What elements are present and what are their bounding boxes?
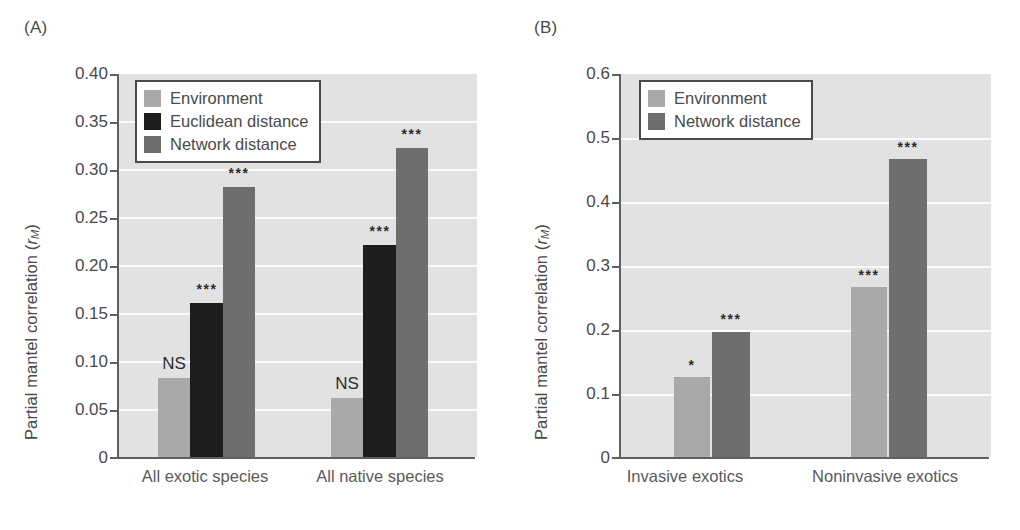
gridline-b-03	[621, 266, 991, 268]
y-tick-a-0	[110, 74, 119, 76]
y-tick-b-2	[612, 202, 621, 204]
legend-item-b-environment[interactable]: Environment	[648, 87, 801, 110]
y-tick-a-3	[110, 218, 119, 220]
plot-area-b: * *** *** *** Environment Network distan…	[621, 74, 991, 457]
legend-swatch-euclidean-icon	[144, 113, 161, 130]
sig-a-exotic-environment: NS	[144, 354, 204, 374]
bar-b-noninvasive-network[interactable]	[889, 159, 927, 457]
bar-a-exotic-euclidean[interactable]	[190, 303, 223, 457]
y-axis-title-subscript-a: M	[29, 230, 41, 239]
sig-a-native-network: ***	[384, 126, 440, 142]
y-tick-label-b-3: 0.3	[544, 256, 610, 276]
y-tick-label-a-2: 0.30	[34, 160, 108, 180]
y-tick-label-a-5: 0.15	[34, 304, 108, 324]
sig-a-exotic-network: ***	[211, 165, 267, 181]
legend-swatch-network-icon	[648, 113, 665, 130]
x-category-label-a-0: All exotic species	[120, 467, 290, 486]
y-axis-title-symbol-a: r	[22, 239, 40, 245]
bar-b-invasive-environment[interactable]	[674, 377, 710, 457]
x-axis-line-a	[117, 457, 475, 459]
gridline-b-04	[621, 202, 991, 204]
bar-a-exotic-network[interactable]	[223, 187, 255, 457]
y-tick-a-8	[110, 457, 119, 459]
y-tick-label-a-6: 0.10	[34, 352, 108, 372]
legend-item-b-network[interactable]: Network distance	[648, 110, 801, 133]
y-tick-label-a-7: 0.05	[34, 400, 108, 420]
y-axis-title-close-b: )	[532, 224, 550, 230]
y-tick-b-0	[612, 74, 621, 76]
x-category-label-b-1: Noninvasive exotics	[785, 467, 985, 486]
legend-item-a-environment[interactable]: Environment	[144, 87, 309, 110]
y-tick-label-a-1: 0.35	[34, 112, 108, 132]
panel-b: (B) Partial mantel correlation (rM) 0.6 …	[510, 0, 1020, 530]
y-tick-label-b-4: 0.2	[544, 320, 610, 340]
y-tick-label-a-0: 0.40	[34, 64, 108, 84]
y-axis-title-subscript-b: M	[539, 230, 551, 239]
y-tick-b-6	[612, 457, 621, 459]
y-tick-a-6	[110, 362, 119, 364]
legend-label-a-environment: Environment	[170, 90, 263, 107]
legend-swatch-environment-icon	[648, 90, 665, 107]
x-axis-line-b	[619, 457, 989, 459]
y-tick-label-b-1: 0.5	[544, 128, 610, 148]
legend-a: Environment Euclidean distance Network d…	[135, 80, 321, 163]
sig-a-native-euclidean: ***	[352, 223, 408, 239]
legend-item-a-network[interactable]: Network distance	[144, 133, 309, 156]
sig-a-exotic-euclidean: ***	[179, 281, 235, 297]
y-tick-label-a-4: 0.20	[34, 256, 108, 276]
y-tick-a-5	[110, 314, 119, 316]
legend-label-a-euclidean: Euclidean distance	[170, 113, 309, 130]
sig-b-noninvasive-network: ***	[880, 139, 936, 155]
y-tick-label-a-3: 0.25	[34, 208, 108, 228]
bar-b-invasive-network[interactable]	[712, 332, 750, 457]
legend-item-a-euclidean[interactable]: Euclidean distance	[144, 110, 309, 133]
panel-b-label: (B)	[534, 18, 558, 38]
bar-a-exotic-environment[interactable]	[158, 378, 190, 457]
y-tick-a-1	[110, 122, 119, 124]
panel-a-label: (A)	[24, 18, 48, 38]
bar-a-native-euclidean[interactable]	[363, 245, 396, 457]
y-tick-a-7	[110, 410, 119, 412]
y-tick-b-4	[612, 330, 621, 332]
bar-a-native-network[interactable]	[396, 148, 428, 457]
y-tick-label-b-2: 0.4	[544, 192, 610, 212]
y-tick-a-2	[110, 170, 119, 172]
sig-b-invasive-environment: *	[664, 357, 720, 373]
y-tick-label-b-5: 0.1	[544, 384, 610, 404]
y-tick-a-4	[110, 266, 119, 268]
y-tick-label-a-8: 0	[34, 448, 108, 468]
y-axis-title-symbol-b: r	[532, 239, 550, 245]
y-tick-label-b-6: 0	[544, 448, 610, 468]
sig-b-invasive-network: ***	[703, 311, 759, 327]
y-tick-b-5	[612, 394, 621, 396]
legend-b: Environment Network distance	[639, 80, 813, 140]
y-tick-b-1	[612, 138, 621, 140]
x-category-label-b-0: Invasive exotics	[600, 467, 770, 486]
plot-area-a: NS *** *** NS *** *** Environment Euclid…	[119, 74, 477, 457]
legend-swatch-environment-icon	[144, 90, 161, 107]
bar-b-noninvasive-environment[interactable]	[851, 287, 887, 457]
legend-label-b-environment: Environment	[674, 90, 767, 107]
sig-a-native-environment: NS	[317, 374, 377, 394]
gridline-b-02	[621, 330, 991, 332]
legend-label-b-network: Network distance	[674, 113, 801, 130]
x-category-label-a-1: All native species	[295, 467, 465, 486]
legend-label-a-network: Network distance	[170, 136, 297, 153]
figure-root: (A) Partial mantel correlation (rM) 0.40…	[0, 0, 1020, 530]
legend-swatch-network-icon	[144, 136, 161, 153]
bar-a-native-environment[interactable]	[331, 398, 363, 457]
y-tick-b-3	[612, 266, 621, 268]
panel-a: (A) Partial mantel correlation (rM) 0.40…	[0, 0, 510, 530]
sig-b-noninvasive-environment: ***	[841, 267, 897, 283]
y-tick-label-b-0: 0.6	[544, 64, 610, 84]
